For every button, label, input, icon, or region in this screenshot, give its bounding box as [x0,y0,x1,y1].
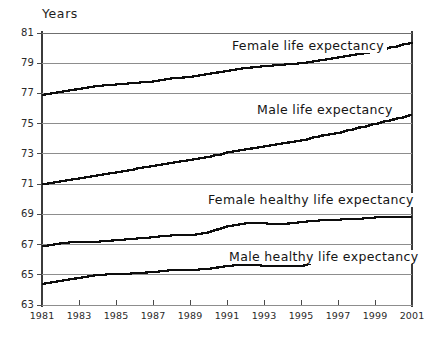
series-label: Female healthy life expectancy [205,193,417,207]
series-label: Male healthy life expectancy [226,250,421,264]
series-line [42,217,413,246]
series-line [42,115,413,184]
life-expectancy-chart: Years 81797775737169676563 1981198319851… [0,0,434,340]
series-label: Male life expectancy [254,103,396,117]
series-label: Female life expectancy [229,39,387,53]
